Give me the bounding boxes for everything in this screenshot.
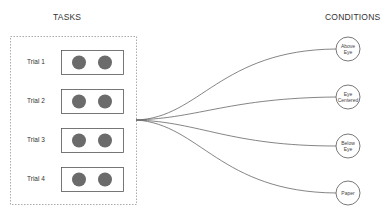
dot-icon [72, 95, 86, 109]
condition-line: Eye [336, 146, 360, 152]
dot-icon [98, 134, 112, 148]
trial-box-3 [62, 129, 124, 153]
condition-label-eye-centered: Eye Centered [336, 91, 360, 103]
trial-label: Trial 3 [27, 136, 45, 143]
trial-label: Trial 4 [27, 175, 45, 182]
dot-icon [98, 173, 112, 187]
trial-box-4 [62, 168, 124, 192]
dot-icon [98, 56, 112, 70]
dot-icon [72, 134, 86, 148]
dot-icon [72, 56, 86, 70]
trial-label: Trial 2 [27, 97, 45, 104]
condition-circles [336, 37, 360, 205]
condition-line: Centered [336, 97, 360, 103]
conditions-heading: CONDITIONS [325, 12, 380, 22]
tasks-heading: TASKS [53, 12, 81, 22]
condition-line: Eye [336, 49, 360, 55]
trial-box-1 [62, 51, 124, 75]
diagram-canvas [0, 0, 390, 217]
trial-label: Trial 1 [27, 58, 45, 65]
condition-label-above-eye: Above Eye [336, 43, 360, 55]
condition-label-paper: Paper [336, 190, 360, 196]
connector-lines [136, 49, 336, 193]
condition-label-below-eye: Below Eye [336, 140, 360, 152]
dot-icon [98, 95, 112, 109]
trial-box-2 [62, 90, 124, 114]
dot-icon [72, 173, 86, 187]
condition-line: Paper [336, 190, 360, 196]
